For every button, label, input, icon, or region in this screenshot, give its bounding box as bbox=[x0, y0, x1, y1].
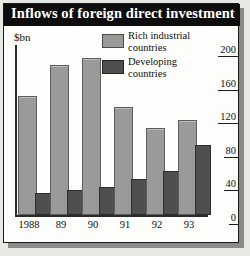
y-axis-units-label: $bn bbox=[14, 31, 31, 43]
x-tick-89: 89 bbox=[45, 219, 77, 230]
chart-figure: Inflows of foreign direct investment $bn… bbox=[3, 3, 239, 243]
x-axis-baseline bbox=[15, 215, 208, 217]
chart-title-banner: Inflows of foreign direct investment bbox=[4, 4, 240, 26]
bar-developing-1988 bbox=[35, 193, 51, 215]
y-tick-200: 200 bbox=[198, 44, 238, 57]
y-tick-label: 80 bbox=[224, 145, 239, 158]
legend-label-line1: Rich industrial bbox=[128, 30, 190, 41]
y-tick-label: 160 bbox=[218, 78, 238, 91]
bar-developing-89 bbox=[67, 190, 83, 215]
x-tick-91: 91 bbox=[109, 219, 141, 230]
x-tick-1988: 1988 bbox=[13, 219, 45, 230]
y-axis-ticks: 20016012080400 bbox=[204, 40, 238, 224]
x-tick-92: 92 bbox=[141, 219, 173, 230]
bar-developing-92 bbox=[163, 171, 179, 216]
y-tick-label: 120 bbox=[218, 111, 238, 124]
y-tick-label: 200 bbox=[218, 44, 238, 57]
y-tick-label: 0 bbox=[229, 212, 238, 225]
bar-developing-90 bbox=[99, 187, 115, 215]
bar-developing-91 bbox=[131, 179, 147, 215]
x-tick-90: 90 bbox=[77, 219, 109, 230]
y-tick-120: 120 bbox=[198, 111, 238, 124]
x-tick-93: 93 bbox=[173, 219, 205, 230]
y-tick-label: 40 bbox=[224, 178, 239, 191]
y-tick-160: 160 bbox=[198, 78, 238, 91]
y-tick-80: 80 bbox=[198, 145, 238, 158]
y-axis-line bbox=[15, 45, 17, 217]
page-title: Inflows of foreign direct investment bbox=[11, 5, 235, 22]
y-tick-40: 40 bbox=[198, 178, 238, 191]
plot-area bbox=[15, 45, 208, 217]
